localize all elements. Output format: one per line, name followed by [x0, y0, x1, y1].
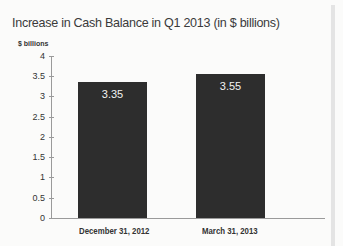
- y-tick-label: 1.5: [32, 152, 45, 162]
- y-tick: [49, 198, 54, 199]
- y-tick: [49, 177, 54, 178]
- x-axis: [51, 218, 325, 219]
- y-tick-label: 4: [40, 51, 45, 61]
- y-tick-label: 3.5: [32, 71, 45, 81]
- y-tick: [49, 117, 54, 118]
- y-tick: [49, 76, 54, 77]
- y-tick-label: 2: [40, 132, 45, 142]
- y-tick: [49, 137, 54, 138]
- y-tick: [49, 157, 54, 158]
- page-edge-shadow: [331, 5, 335, 246]
- y-tick-label: 3: [40, 91, 45, 101]
- y-tick: [49, 96, 54, 97]
- y-tick-label: 0.5: [32, 193, 45, 203]
- bar-value-label: 3.55: [196, 80, 265, 92]
- chart-title: Increase in Cash Balance in Q1 2013 (in …: [12, 15, 280, 30]
- bar-dec-2012: 3.35: [78, 82, 147, 218]
- x-category-label: March 31, 2013: [202, 226, 258, 236]
- y-axis-label: $ billions: [18, 40, 48, 47]
- bar-value-label: 3.35: [78, 88, 147, 100]
- y-tick-label: 0: [40, 213, 45, 223]
- bar-mar-2013: 3.55: [196, 74, 265, 218]
- x-category-label: December 31, 2012: [79, 226, 149, 236]
- y-tick-label: 1: [40, 172, 45, 182]
- y-tick-label: 2.5: [32, 112, 45, 122]
- y-tick: [49, 218, 54, 219]
- y-tick: [49, 56, 54, 57]
